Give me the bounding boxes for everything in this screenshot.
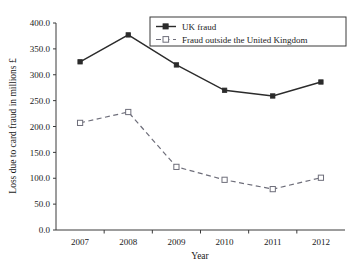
x-tick-label-2008: 2008: [119, 237, 138, 247]
x-axis-title: Year: [191, 251, 209, 261]
y-tick-label-300: 300.0: [30, 70, 51, 80]
legend-marker-filled-square: [163, 24, 168, 29]
x-tick-label-2010: 2010: [216, 237, 235, 247]
series-fraud-outside-uk: [77, 109, 323, 191]
legend-label-uk-fraud: UK fraud: [182, 22, 217, 32]
y-axis-title: Loss due to card fraud in millions £: [8, 58, 18, 194]
data-point-2012-uk: [319, 80, 323, 84]
data-point-2010-outside: [222, 177, 227, 182]
data-point-2007-outside: [77, 120, 82, 125]
data-point-2008-outside: [126, 109, 131, 114]
data-point-2012-outside: [318, 175, 323, 180]
legend-marker-open-square: [163, 37, 169, 43]
y-axis-tick-labels: 0.050.0100.0150.0200.0250.0300.0350.0400…: [30, 18, 51, 235]
y-tick-label-0: 0.0: [39, 225, 51, 235]
line-chart-canvas: 0.050.0100.0150.0200.0250.0300.0350.0400…: [0, 0, 353, 264]
y-tick-label-100: 100.0: [30, 173, 51, 183]
data-point-2009-outside: [174, 164, 179, 169]
chart-figure: 0.050.0100.0150.0200.0250.0300.0350.0400…: [0, 0, 353, 264]
x-axis-ticks: [104, 230, 297, 234]
data-point-2010-uk: [222, 88, 226, 92]
y-tick-label-350: 350.0: [30, 44, 51, 54]
y-tick-label-400: 400.0: [30, 18, 51, 28]
data-point-2011-uk: [271, 94, 275, 98]
data-series-group: [77, 33, 323, 192]
x-tick-label-2009: 2009: [167, 237, 186, 247]
y-tick-label-50: 50.0: [34, 199, 50, 209]
data-point-2008-uk: [126, 33, 130, 37]
y-tick-label-250: 250.0: [30, 96, 51, 106]
legend-label-outside-uk: Fraud outside the United Kingdom: [182, 35, 308, 45]
data-point-2011-outside: [270, 187, 275, 192]
axes-group: [53, 23, 345, 234]
axis-lines: [56, 23, 345, 230]
data-point-2007-uk: [78, 60, 82, 64]
x-tick-label-2011: 2011: [264, 237, 282, 247]
data-point-2009-uk: [174, 63, 178, 67]
series-line-1: [80, 112, 321, 189]
x-tick-label-2007: 2007: [71, 237, 90, 247]
x-axis-tick-labels: 200720082009201020112012: [71, 237, 330, 247]
y-tick-label-150: 150.0: [30, 148, 51, 158]
chart-legend: UK fraud Fraud outside the United Kingdo…: [150, 17, 346, 46]
y-tick-label-200: 200.0: [30, 122, 51, 132]
x-tick-label-2012: 2012: [312, 237, 330, 247]
